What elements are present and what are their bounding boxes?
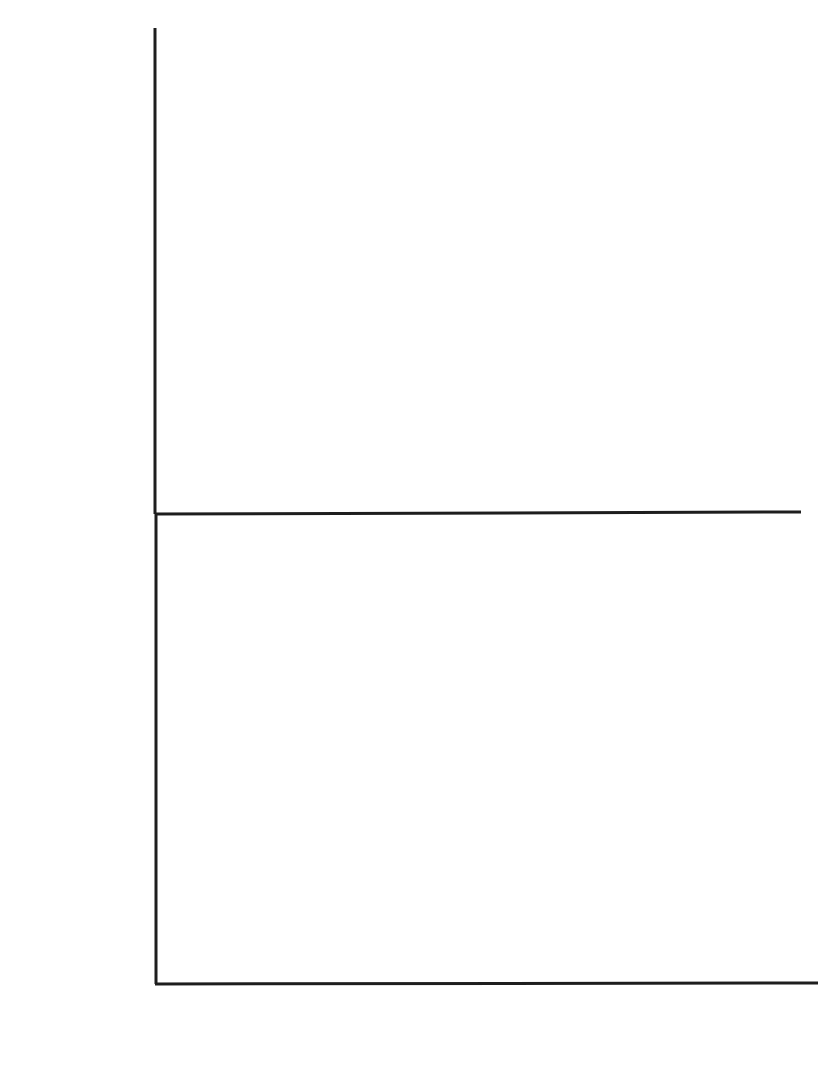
middle-x-axis: [155, 512, 801, 514]
bottom-x-axis: [155, 983, 818, 984]
bottom-panel-nitrogen: [155, 514, 818, 984]
corn-nitrogen-chart: [0, 0, 839, 1089]
top-panel-corn-yield: [155, 28, 801, 514]
